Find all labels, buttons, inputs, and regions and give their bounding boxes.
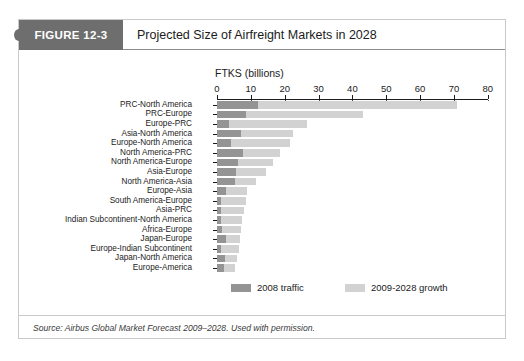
- category-label: PRC-Europe: [146, 110, 192, 118]
- category-label: Europe-America: [133, 264, 192, 272]
- figure-header: FIGURE 12-3 Projected Size of Airfreight…: [19, 20, 505, 50]
- source-divider: [19, 315, 505, 316]
- category-label: Europe-PRC: [146, 120, 192, 128]
- bar-rows: PRC-North AmericaPRC-EuropeEurope-PRCAsi…: [19, 100, 505, 273]
- chart-body: FTKS (billions) 01020304050607080 PRC-No…: [19, 50, 505, 338]
- table-row: PRC-North America: [19, 100, 505, 110]
- stacked-bar: [217, 245, 239, 253]
- table-row: Indian Subcontinent-North America: [19, 215, 505, 225]
- bar-segment-2009-2028-growth: [235, 178, 256, 186]
- stacked-bar: [217, 168, 266, 176]
- stacked-bar: [217, 207, 244, 215]
- table-row: Africa-Europe: [19, 225, 505, 235]
- table-row: Japan-North America: [19, 254, 505, 264]
- x-tick-label: 50: [381, 83, 392, 94]
- table-row: North America-Asia: [19, 177, 505, 187]
- table-row: Europe-America: [19, 263, 505, 273]
- legend-label: 2009-2028 growth: [371, 282, 448, 293]
- bar-segment-2009-2028-growth: [221, 197, 246, 205]
- bar-segment-2009-2028-growth: [221, 207, 244, 215]
- stacked-bar: [217, 130, 293, 138]
- bar-segment-2009-2028-growth: [222, 226, 241, 234]
- bar-segment-2008-traffic: [217, 149, 243, 157]
- bar-segment-2009-2028-growth: [241, 130, 293, 138]
- category-label: Japan-North America: [115, 254, 192, 262]
- bar-segment-2009-2028-growth: [238, 159, 273, 167]
- bar-segment-2008-traffic: [217, 168, 236, 176]
- bar-segment-2008-traffic: [217, 159, 238, 167]
- header-notch-decoration: [14, 29, 24, 41]
- x-tick-mark: [488, 95, 489, 99]
- stacked-bar: [217, 159, 273, 167]
- legend-swatch: [231, 284, 251, 292]
- table-row: North America-PRC: [19, 148, 505, 158]
- stacked-bar: [217, 226, 241, 234]
- legend-item: 2008 traffic: [231, 282, 304, 293]
- legend-item: 2009-2028 growth: [345, 282, 448, 293]
- bar-segment-2009-2028-growth: [229, 120, 307, 128]
- category-label: Asia-Europe: [147, 168, 192, 176]
- bar-segment-2009-2028-growth: [224, 264, 236, 272]
- stacked-bar: [217, 255, 237, 263]
- x-axis-title: FTKS (billions): [215, 67, 284, 79]
- table-row: Europe-North America: [19, 138, 505, 148]
- legend-label: 2008 traffic: [257, 282, 304, 293]
- table-row: Europe-PRC: [19, 119, 505, 129]
- category-label: Europe-Indian Subcontinent: [90, 245, 192, 253]
- table-row: Europe-Indian Subcontinent: [19, 244, 505, 254]
- category-label: North America-PRC: [120, 149, 192, 157]
- x-tick-label: 80: [483, 83, 494, 94]
- bar-segment-2008-traffic: [217, 130, 241, 138]
- stacked-bar: [217, 187, 247, 195]
- table-row: PRC-Europe: [19, 110, 505, 120]
- table-row: North America-Europe: [19, 158, 505, 168]
- source-note: Source: Airbus Global Market Forecast 20…: [33, 323, 315, 333]
- bar-segment-2008-traffic: [217, 139, 231, 147]
- table-row: Asia-North America: [19, 129, 505, 139]
- x-tick-label: 20: [279, 83, 290, 94]
- stacked-bar: [217, 178, 256, 186]
- category-label: Europe-Asia: [147, 187, 192, 195]
- table-row: Japan-Europe: [19, 234, 505, 244]
- bar-segment-2009-2028-growth: [221, 216, 242, 224]
- table-row: South America-Europe: [19, 196, 505, 206]
- stacked-bar: [217, 149, 280, 157]
- category-label: Asia-PRC: [156, 206, 192, 214]
- stacked-bar: [217, 111, 363, 119]
- stacked-bar: [217, 120, 307, 128]
- table-row: Asia-Europe: [19, 167, 505, 177]
- table-row: Asia-PRC: [19, 206, 505, 216]
- x-tick-label: 30: [313, 83, 324, 94]
- x-tick-label: 0: [214, 83, 219, 94]
- stacked-bar: [217, 139, 290, 147]
- bar-segment-2008-traffic: [217, 255, 225, 263]
- figure-title: Projected Size of Airfreight Markets in …: [123, 20, 505, 50]
- bar-segment-2009-2028-growth: [258, 101, 458, 109]
- x-axis-tick-labels: 01020304050607080: [19, 83, 505, 95]
- bar-segment-2008-traffic: [217, 101, 258, 109]
- bar-segment-2008-traffic: [217, 235, 226, 243]
- category-label: North America-Europe: [111, 158, 192, 166]
- bar-segment-2009-2028-growth: [226, 187, 247, 195]
- category-label: Indian Subcontinent-North America: [65, 216, 192, 224]
- bar-segment-2008-traffic: [217, 264, 224, 272]
- stacked-bar: [217, 197, 246, 205]
- x-tick-label: 10: [246, 83, 257, 94]
- bar-segment-2009-2028-growth: [231, 139, 291, 147]
- table-row: Europe-Asia: [19, 186, 505, 196]
- category-label: PRC-North America: [120, 101, 192, 109]
- stacked-bar: [217, 264, 235, 272]
- bar-segment-2009-2028-growth: [243, 149, 280, 157]
- bar-segment-2009-2028-growth: [225, 255, 237, 263]
- stacked-bar: [217, 235, 240, 243]
- bar-segment-2008-traffic: [217, 111, 246, 119]
- category-label: Japan-Europe: [141, 235, 192, 243]
- bar-segment-2009-2028-growth: [236, 168, 266, 176]
- bar-segment-2008-traffic: [217, 178, 235, 186]
- bar-segment-2008-traffic: [217, 120, 229, 128]
- x-tick-label: 40: [347, 83, 358, 94]
- bar-segment-2009-2028-growth: [226, 235, 240, 243]
- category-label: Africa-Europe: [142, 225, 192, 233]
- bar-segment-2008-traffic: [217, 187, 226, 195]
- category-label: Europe-North America: [111, 139, 192, 147]
